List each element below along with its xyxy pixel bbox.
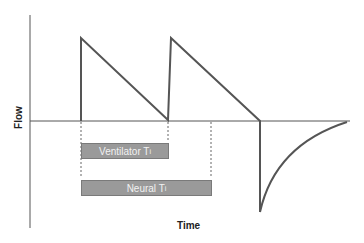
neural-ti-label: Neural T [127,183,165,194]
ventilator-ti-bar: Ventilator Ti [81,143,169,159]
expiratory-flow-curve [260,122,347,212]
neural-ti-bar: Neural Ti [81,180,212,196]
neural-ti-subscript: i [165,185,167,192]
y-axis-label: Flow [13,103,24,133]
x-axis-label: Time [177,220,200,231]
ventilator-ti-subscript: i [149,148,151,155]
flow-waveform-diagram [0,0,364,243]
ventilator-ti-label: Ventilator T [99,146,149,157]
